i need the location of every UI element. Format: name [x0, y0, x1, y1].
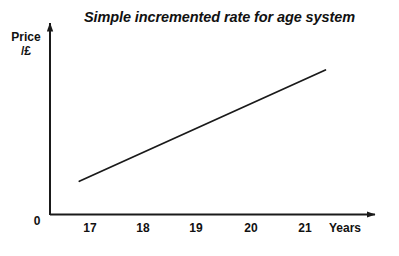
- chart-figure: Simple incremented rate for age system P…: [0, 0, 399, 256]
- plot-area: [0, 0, 399, 256]
- data-series-price-line: [79, 70, 325, 181]
